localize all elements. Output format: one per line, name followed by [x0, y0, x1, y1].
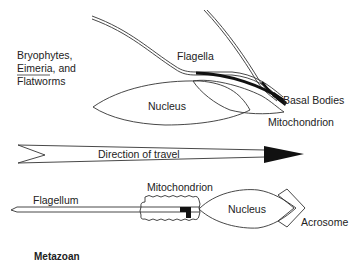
direction-label: Direction of travel — [98, 148, 180, 160]
flagellum-label: Flagellum — [33, 194, 79, 206]
flagellum-bottom — [11, 207, 200, 212]
flagella-label: Flagella — [177, 50, 214, 62]
and-label: , and — [53, 62, 77, 74]
group-label-line1: Bryophytes, — [17, 49, 72, 61]
eimeria-label: Eimeria — [17, 62, 53, 74]
group-label-line2: Eimeria, and — [17, 62, 76, 74]
arrow-tail-notch — [18, 145, 45, 163]
top-panel: Bryophytes, Eimeria, and Flatworms Fl — [17, 10, 344, 128]
mitochondrion-label-top: Mitochondrion — [268, 116, 334, 128]
sperm-morphology-diagram: Bryophytes, Eimeria, and Flatworms Fl — [0, 0, 354, 265]
mitochondrion-label-bottom: Mitochondrion — [147, 181, 213, 193]
direction-arrow: Direction of travel — [18, 145, 304, 163]
metazoan-label: Metazoan — [34, 251, 80, 262]
arrow-head — [264, 146, 304, 163]
nucleus-label-bottom: Nucleus — [228, 203, 266, 215]
nucleus-label-top: Nucleus — [148, 100, 186, 112]
bottom-panel: Flagellum Mitochondrion Nucleus Acrosome… — [11, 181, 348, 262]
acrosome-label: Acrosome — [301, 216, 348, 228]
group-label-line3: Flatworms — [17, 75, 65, 87]
centriole-vertical — [186, 207, 191, 218]
mitochondrion-top — [193, 80, 284, 113]
basal-bodies-label: Basal Bodies — [283, 94, 344, 106]
